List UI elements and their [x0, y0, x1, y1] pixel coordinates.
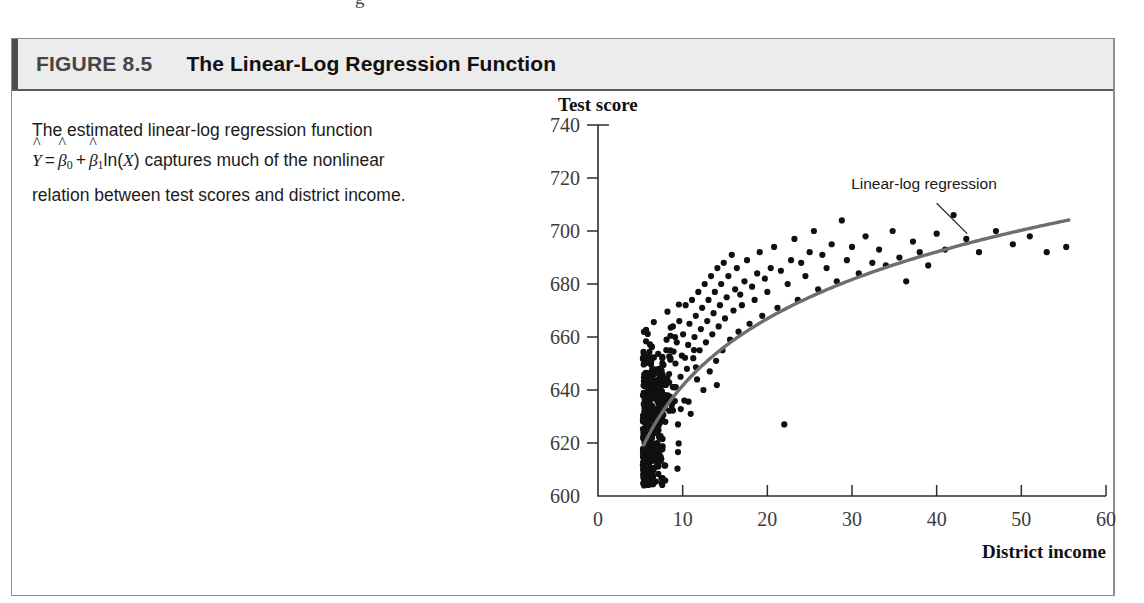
scatter-point [714, 265, 720, 271]
scatter-point [781, 421, 787, 427]
scatter-point [647, 443, 653, 449]
scatter-point [903, 278, 909, 284]
scatter-point [862, 233, 868, 239]
scatter-point [642, 381, 648, 387]
scatter-point [718, 281, 724, 287]
scatter-point [844, 257, 850, 263]
figure-header: FIGURE 8.5 The Linear-Log Regression Fun… [12, 39, 1113, 91]
scatter-point [640, 356, 646, 362]
y-axis-title: Test score [558, 94, 638, 115]
scatter-point [798, 260, 804, 266]
scatter-point [824, 265, 830, 271]
scatter-point [697, 347, 703, 353]
scatter-point [771, 244, 777, 250]
y-tick-label: 640 [550, 379, 580, 401]
annotation-leader-line [937, 203, 967, 233]
scatter-point [647, 472, 653, 478]
scatter-point [703, 339, 709, 345]
scatter-point [778, 268, 784, 274]
scatter-point [641, 371, 647, 377]
beta1-symbol: ^β [89, 145, 98, 175]
scatter-point [896, 254, 902, 260]
scatter-point [710, 310, 716, 316]
y-tick-label: 680 [550, 273, 580, 295]
scatter-point [671, 384, 677, 390]
scatter-point [934, 231, 940, 237]
scatter-point [651, 319, 657, 325]
scatter-point [672, 360, 678, 366]
scatter-point [640, 392, 646, 398]
scatter-point [679, 352, 685, 358]
scatter-point [691, 334, 697, 340]
scatter-point [705, 297, 711, 303]
x-axis-title: District income [982, 541, 1106, 562]
x-tick-label: 60 [1096, 508, 1116, 530]
scatter-point [925, 262, 931, 268]
scatter-point [890, 228, 896, 234]
scatter-point [653, 378, 659, 384]
scatter-point [729, 252, 735, 258]
scatter-point [744, 257, 750, 263]
scatter-point [702, 281, 708, 287]
scatter-point [713, 358, 719, 364]
caption-line-3: relation between test scores and distric… [32, 185, 406, 205]
figure-box: FIGURE 8.5 The Linear-Log Regression Fun… [11, 38, 1115, 596]
scatter-point [802, 273, 808, 279]
beta0-subscript: 0 [67, 158, 73, 172]
scatter-point [839, 217, 845, 223]
scatter-point [657, 435, 663, 441]
scatter-point [993, 228, 999, 234]
scatter-point [721, 260, 727, 266]
figure-number: FIGURE 8.5 [36, 52, 152, 76]
scatter-point [680, 331, 686, 337]
scatter-point [666, 371, 672, 377]
scatter-point [652, 464, 658, 470]
scatter-point [741, 278, 747, 284]
x-tick-label: 30 [842, 508, 862, 530]
scatter-point [811, 228, 817, 234]
scatter-point [641, 472, 647, 478]
scatter-point [649, 366, 655, 372]
scatter-point [869, 260, 875, 266]
scatter-point [662, 477, 668, 483]
hat-accent-b1: ^ [89, 135, 97, 151]
scatter-point [667, 355, 673, 361]
scatter-point [785, 281, 791, 287]
scatter-point [640, 349, 646, 355]
scatter-point [722, 315, 728, 321]
regression-curve [644, 220, 1069, 445]
scatter-point [725, 273, 731, 279]
scatter-point [643, 327, 649, 333]
regression-annotation-label: Linear-log regression [851, 175, 997, 192]
scatter-point [686, 321, 692, 327]
y-tick-label: 600 [550, 485, 580, 507]
scatter-point [737, 292, 743, 298]
scatter-point [675, 449, 681, 455]
x-tick-label: 20 [757, 508, 777, 530]
scatter-point [829, 241, 835, 247]
scatter-point [649, 355, 655, 361]
y-tick-label: 700 [550, 220, 580, 242]
scatter-point [662, 462, 668, 468]
scatter-point [757, 249, 763, 255]
scatter-point [678, 406, 684, 412]
scatter-point [688, 411, 694, 417]
scatter-point [700, 387, 706, 393]
scatter-point [683, 302, 689, 308]
y-tick-label: 740 [550, 114, 580, 136]
beta-letter-1: β [89, 150, 98, 170]
scatter-point [762, 276, 768, 282]
scatter-point [712, 289, 718, 295]
scatter-point [963, 236, 969, 242]
scatter-point [764, 289, 770, 295]
y-hat-symbol: ^Y [32, 145, 42, 175]
figure-body: The estimated linear-log regression func… [12, 91, 1113, 595]
beta0-symbol: ^β [58, 145, 67, 175]
ln-close: ) [134, 150, 140, 170]
scatter-point [709, 331, 715, 337]
scatter-point [689, 297, 695, 303]
scatter-point [708, 273, 714, 279]
scatter-point [754, 270, 760, 276]
scatter-point [749, 284, 755, 290]
scatter-points [640, 212, 1070, 488]
